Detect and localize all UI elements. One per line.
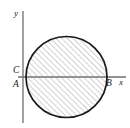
point-label-c: C [13, 66, 19, 75]
geometry-figure: y x C A B [0, 0, 130, 128]
point-label-b: B [106, 79, 112, 88]
figure-canvas [0, 0, 130, 128]
point-label-a: A [13, 80, 19, 89]
x-axis-label: x [119, 78, 123, 87]
y-axis-label: y [14, 9, 18, 18]
